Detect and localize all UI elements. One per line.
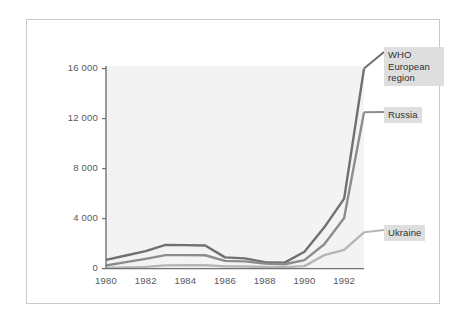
x-tick-label: 1982 — [124, 275, 168, 286]
plot-area-background — [106, 66, 364, 268]
x-tick-label: 1988 — [243, 275, 287, 286]
series-label-ukraine: Ukraine — [384, 225, 425, 241]
x-tick-label: 1992 — [322, 275, 366, 286]
y-tick-label: 0 — [40, 262, 98, 273]
series-label-who-european-region: WHO European region — [384, 47, 444, 86]
series-leader-2 — [364, 230, 384, 232]
x-tick-label: 1990 — [282, 275, 326, 286]
x-tick-label: 1980 — [84, 275, 128, 286]
y-tick-label: 12 000 — [40, 112, 98, 123]
figure-container: 04 0008 00012 00016 000 1980198219841986… — [0, 0, 464, 323]
series-leader-0 — [364, 52, 384, 69]
y-tick-label: 8 000 — [40, 162, 98, 173]
x-tick-label: 1984 — [163, 275, 207, 286]
y-tick-label: 16 000 — [40, 62, 98, 73]
series-label-russia: Russia — [384, 107, 422, 123]
x-tick-label: 1986 — [203, 275, 247, 286]
y-tick-label: 4 000 — [40, 212, 98, 223]
